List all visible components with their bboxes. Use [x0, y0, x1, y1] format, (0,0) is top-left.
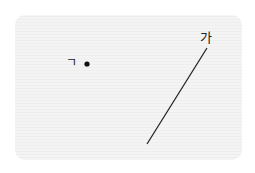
line-segment — [147, 48, 207, 144]
line-label: 가 — [200, 31, 212, 44]
point-label: ㄱ — [66, 57, 77, 69]
point-marker — [84, 61, 89, 66]
diagram-canvas — [0, 0, 255, 173]
